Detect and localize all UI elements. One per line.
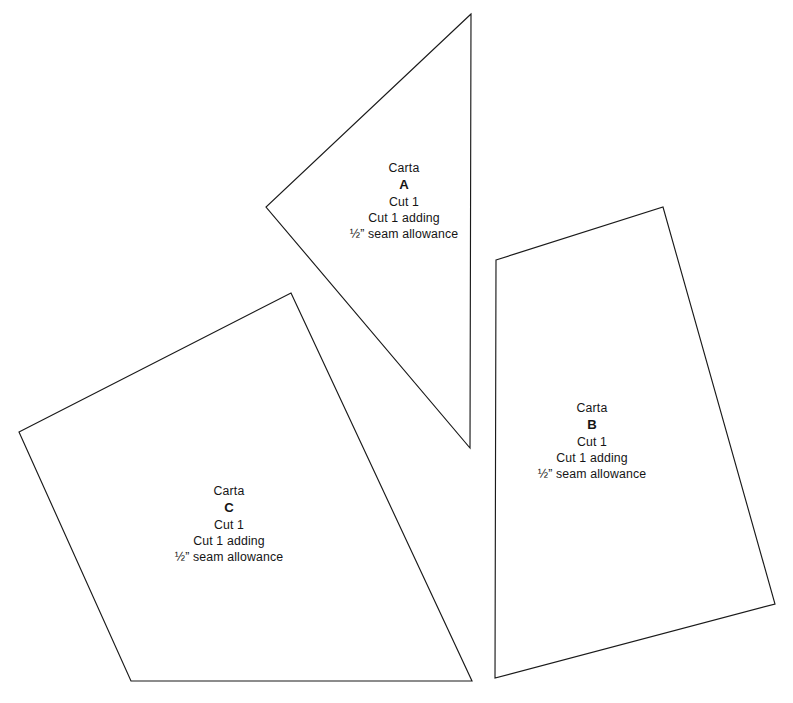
piece-letter-a: A: [350, 176, 459, 193]
piece-seam-allowance-a: ½” seam allowance: [350, 226, 459, 242]
piece-brand-a: Carta: [350, 160, 459, 176]
piece-cut-adding-b: Cut 1 adding: [538, 450, 647, 466]
piece-letter-c: C: [175, 499, 284, 516]
piece-cut-b: Cut 1: [538, 433, 647, 449]
piece-cut-a: Cut 1: [350, 193, 459, 209]
piece-label-a: Carta A Cut 1 Cut 1 adding ½” seam allow…: [350, 160, 459, 242]
piece-cut-adding-a: Cut 1 adding: [350, 210, 459, 226]
piece-cut-adding-c: Cut 1 adding: [175, 533, 284, 549]
piece-letter-b: B: [538, 416, 647, 433]
pattern-sheet: Carta A Cut 1 Cut 1 adding ½” seam allow…: [0, 0, 793, 703]
piece-seam-allowance-b: ½” seam allowance: [538, 466, 647, 482]
piece-brand-b: Carta: [538, 400, 647, 416]
piece-cut-c: Cut 1: [175, 516, 284, 532]
piece-label-b: Carta B Cut 1 Cut 1 adding ½” seam allow…: [538, 400, 647, 482]
pattern-outlines: [0, 0, 793, 703]
piece-label-c: Carta C Cut 1 Cut 1 adding ½” seam allow…: [175, 483, 284, 565]
piece-brand-c: Carta: [175, 483, 284, 499]
piece-seam-allowance-c: ½” seam allowance: [175, 549, 284, 565]
